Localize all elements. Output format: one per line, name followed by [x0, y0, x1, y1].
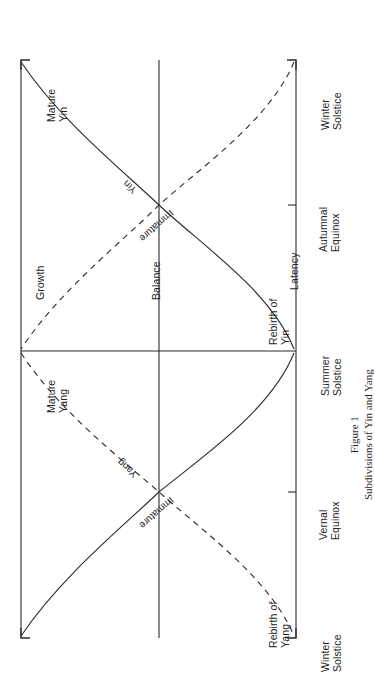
label-summer-solstice-line2: Solstice [331, 358, 343, 396]
label-growth: Growth [35, 266, 47, 300]
label-mature-yin: Mature Yin [46, 89, 69, 122]
label-summer-solstice-line1: Summer [319, 356, 331, 396]
label-autumnal-equinox: AutumnalEquinox [318, 207, 341, 252]
label-winter-solstice-top: WinterSolstice [320, 92, 343, 130]
label-winter-solstice-bottom-line2: Solstice [331, 634, 343, 672]
label-autumnal-equinox-line1: Autumnal [317, 207, 329, 252]
label-winter-solstice-top-line1: Winter [319, 99, 331, 130]
label-latency: Latency [289, 253, 301, 290]
label-vernal-equinox-line1: Vernal [317, 510, 329, 540]
bracket-top-right [287, 60, 296, 70]
label-rebirth-of-yin: Rebirth of Yin [268, 298, 291, 345]
label-balance: Balance [151, 261, 163, 300]
figure-caption-line2: Subdivisions of Yin and Yang [362, 369, 374, 500]
label-winter-solstice-bottom: WinterSolstice [320, 634, 343, 672]
figure-caption-line1: Figure 1 [348, 416, 360, 453]
label-vernal-equinox-line2: Equinox [329, 501, 341, 540]
label-winter-solstice-bottom-line1: Winter [319, 641, 331, 672]
label-autumnal-equinox-line2: Equinox [329, 213, 341, 252]
label-mature-yang: Mature Yang [46, 380, 69, 413]
label-winter-solstice-top-line2: Solstice [331, 92, 343, 130]
label-rebirth-of-yang: Rebirth of Yang [268, 601, 291, 648]
label-summer-solstice: SummerSolstice [320, 356, 343, 396]
figure-caption: Figure 1Subdivisions of Yin and Yang [347, 369, 375, 500]
label-vernal-equinox: VernalEquinox [318, 501, 341, 540]
